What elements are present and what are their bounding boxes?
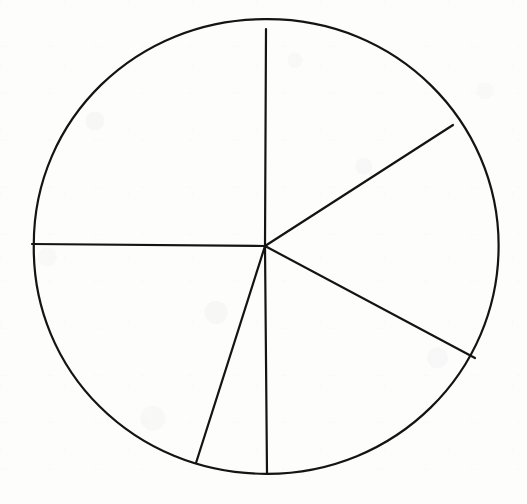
radial-line-lower-right [265,246,475,358]
pie-group [32,19,499,474]
radial-line-left [32,244,265,246]
radial-line-bottom [265,246,267,473]
pie-chart-canvas [0,0,527,504]
radial-line-bottom-left [196,246,265,463]
pie-diagram-figure [0,0,527,504]
radial-line-upper-right [265,125,453,246]
radial-line-top [265,29,266,246]
